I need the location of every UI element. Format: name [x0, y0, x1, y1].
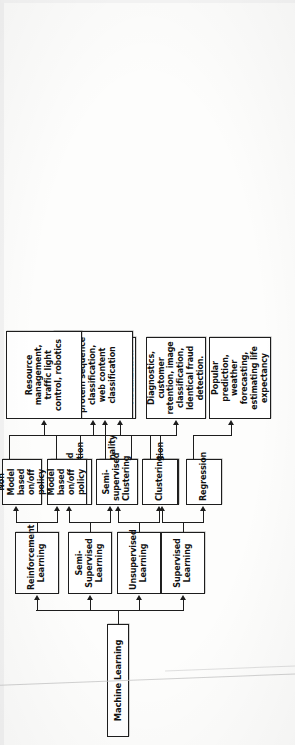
arrow-into-reinforcement-outcome — [41, 420, 47, 425]
edge-reinforcement-out — [37, 522, 38, 532]
arrow-into-reinforcement — [34, 595, 40, 600]
edge-spine-to-supervised — [183, 599, 184, 611]
node-reinforcement-learning[interactable]: Reinforcement Learning — [15, 532, 59, 594]
node-model-based-policy[interactable]: Model based on/off policy — [47, 459, 87, 505]
edge-semi-supervised-fork — [69, 522, 111, 523]
edge-semi-supervised-to-classification — [69, 509, 70, 523]
node-supervised-learning[interactable]: Supervised Learning — [161, 532, 205, 594]
edge-supervised-to-classification — [162, 509, 163, 523]
edge-supervised-out — [183, 522, 184, 532]
edge-semi-classification-out — [56, 435, 57, 459]
edge-root-trunk — [118, 610, 119, 624]
arrow-into-semi-supervised-clustering — [107, 506, 113, 511]
arrow-into-dimensionality-reduction — [115, 506, 121, 511]
node-label: Supervised Learning — [173, 536, 193, 590]
edge-reinforcement-to-non-model — [16, 509, 17, 523]
node-label: Non Model based on/off policy — [0, 463, 47, 501]
arrow-into-semi-supervised — [87, 595, 93, 600]
edge-spine-to-semi-supervised — [90, 599, 91, 611]
edge-regression-out — [193, 435, 194, 459]
node-machine-learning[interactable]: Machine Learning — [107, 624, 129, 737]
node-label: Semi-supervised Clustering — [102, 463, 132, 501]
node-label: Machine Learning — [113, 628, 123, 733]
edge-semi-supervised-out — [90, 522, 91, 532]
edge-supervised-to-regression — [203, 509, 204, 523]
arrow-into-unsupervised — [136, 595, 142, 600]
arrow-into-model-based-policy — [54, 506, 60, 511]
node-label: Popular prediction, weather forecasting,… — [211, 341, 270, 415]
arrow-into-non-model-based-policy — [13, 506, 19, 511]
node-non-model-based-policy[interactable]: Non Model based on/off policy — [2, 459, 42, 505]
edge-unsupervised-to-dimensionality — [118, 509, 119, 523]
edge-model-out — [80, 435, 81, 459]
edge-unsupervised-fork — [118, 522, 160, 523]
node-reinforcement-outcome[interactable]: Resource management, traffic light contr… — [6, 331, 82, 419]
arrow-into-semi-supervised-classification — [66, 506, 72, 511]
node-unsupervised-learning[interactable]: Unsupervised Learning — [117, 532, 161, 594]
arrow-into-clustering — [156, 506, 162, 511]
edge-regression-drop — [193, 435, 232, 436]
edge-clustering-out — [160, 435, 161, 459]
diagram-stage: Machine Learning Supervised Learning Cla… — [0, 0, 295, 745]
node-label: Unsupervised Learning — [129, 536, 149, 590]
edge-supervised-fork — [162, 522, 204, 523]
node-label: Clustering — [155, 463, 165, 501]
arrow-into-unsupervised-outcome-dimensionality — [102, 420, 108, 425]
node-label: Reinforcement Learning — [27, 536, 47, 590]
node-label: Resource management, traffic light contr… — [25, 335, 64, 415]
edge-classification-out — [150, 435, 151, 459]
node-label: Model based on/off policy — [47, 463, 86, 501]
edge-unsupervised-out — [139, 522, 140, 532]
node-semi-supervised-clustering[interactable]: Semi-supervised Clustering — [96, 459, 138, 505]
arrow-into-supervised-outcome-classification — [173, 420, 179, 425]
node-supervised-outcome-classification[interactable]: Diagnostics, customer retention, image c… — [146, 337, 206, 419]
edge-semi-supervised-to-clustering — [110, 509, 111, 523]
edge-dimensionality-to-outcome — [105, 423, 106, 459]
node-clustering[interactable]: Clustering — [142, 459, 178, 505]
arrow-into-unsupervised-outcome-clustering — [117, 420, 123, 425]
node-label: Regression — [199, 463, 209, 501]
arrow-into-supervised — [180, 595, 186, 600]
edge-non-model-out — [9, 435, 10, 459]
node-supervised-outcome-regression[interactable]: Popular prediction, weather forecasting,… — [209, 337, 271, 419]
edge-root-spine — [36, 610, 184, 611]
edge-semi-clustering-out — [131, 435, 132, 459]
arrow-into-supervised-outcome-regression — [228, 420, 234, 425]
arrow-into-regression — [200, 506, 206, 511]
arrow-into-semi-supervised-outcome — [90, 420, 96, 425]
edge-reinforcement-to-model — [57, 509, 58, 523]
node-label: Diagnostics, customer retention, image c… — [147, 341, 206, 415]
edge-spine-to-reinforcement — [37, 599, 38, 611]
node-semi-supervised-learning[interactable]: Semi-Supervised Learning — [68, 532, 112, 594]
node-regression[interactable]: Regression — [186, 459, 222, 505]
edge-unsupervised-to-clustering — [159, 509, 160, 523]
node-label: Semi-Supervised Learning — [75, 536, 105, 590]
edge-reinforcement-fork — [16, 522, 58, 523]
edge-spine-to-unsupervised — [139, 599, 140, 611]
scanned-page: Machine Learning Supervised Learning Cla… — [0, 0, 295, 745]
